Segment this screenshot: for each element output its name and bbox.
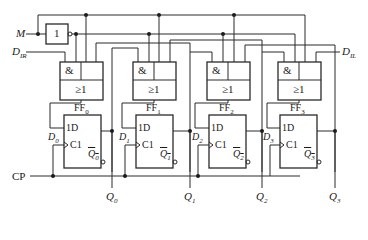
qbar-label-3: Q3 bbox=[304, 148, 315, 162]
or-label-3: ≥1 bbox=[293, 83, 305, 95]
flipflop-name-2: FF2 bbox=[219, 102, 234, 116]
right-serial-input-label: DIR bbox=[12, 45, 27, 60]
flipflop-name-3: FF3 bbox=[290, 102, 305, 116]
qbar-label-1: Q1 bbox=[160, 148, 171, 162]
flipflop-name-1: FF1 bbox=[146, 102, 161, 116]
q-output-label-3: Q3 bbox=[329, 190, 340, 205]
d-pin-1: 1D bbox=[138, 122, 150, 133]
c-pin-2: C1 bbox=[215, 139, 227, 150]
or-label-0: ≥1 bbox=[75, 83, 87, 95]
d-label-0: D0 bbox=[48, 131, 59, 145]
and-label-3: & bbox=[283, 64, 292, 76]
c-pin-0: C1 bbox=[70, 139, 82, 150]
c-pin-3: C1 bbox=[286, 139, 298, 150]
flipflop-name-0: FF0 bbox=[74, 102, 89, 116]
mode-input-label: M bbox=[16, 27, 25, 39]
d-label-3: D3 bbox=[263, 131, 274, 145]
clock-input-label: CP bbox=[12, 170, 25, 182]
or-label-2: ≥1 bbox=[222, 83, 234, 95]
and-label-1: & bbox=[138, 64, 147, 76]
and-label-0: & bbox=[65, 64, 74, 76]
d-pin-2: 1D bbox=[211, 122, 223, 133]
d-label-2: D2 bbox=[192, 131, 203, 145]
c-pin-1: C1 bbox=[142, 139, 154, 150]
and-label-2: & bbox=[212, 64, 221, 76]
q-output-label-2: Q2 bbox=[256, 190, 267, 205]
or-label-1: ≥1 bbox=[148, 83, 160, 95]
d-label-1: D1 bbox=[119, 131, 130, 145]
qbar-label-2: Q2 bbox=[233, 148, 244, 162]
q-output-label-0: Q0 bbox=[106, 190, 117, 205]
q-output-label-1: Q1 bbox=[184, 190, 195, 205]
left-serial-input-label: DIL bbox=[342, 45, 356, 60]
d-pin-3: 1D bbox=[282, 122, 294, 133]
inverter-label: 1 bbox=[54, 27, 60, 39]
qbar-label-0: Q0 bbox=[88, 148, 99, 162]
d-pin-0: 1D bbox=[66, 122, 78, 133]
